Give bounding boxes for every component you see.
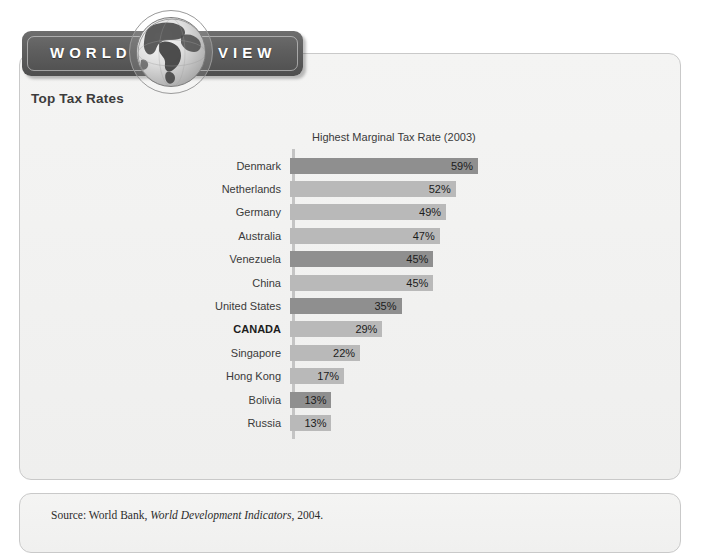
chart-bar: 47% <box>290 228 440 244</box>
chart-row-label: Russia <box>20 417 290 429</box>
chart-bar: 45% <box>290 251 433 267</box>
chart-row-label: Singapore <box>20 347 290 359</box>
chart-bar-value: 35% <box>374 300 401 312</box>
chart-bar: 13% <box>290 415 331 431</box>
chart-bar-value: 45% <box>406 277 433 289</box>
chart-bar-value: 22% <box>333 347 360 359</box>
source-note: Source: World Bank, World Development In… <box>51 509 323 521</box>
chart-bar-value: 49% <box>419 206 446 218</box>
chart-row: Germany49% <box>20 201 682 224</box>
chart-row: CANADA29% <box>20 318 682 341</box>
banner-word-view: VIEW <box>218 44 276 62</box>
chart-rows: Denmark59%Netherlands52%Germany49%Austra… <box>20 154 682 435</box>
chart-bar-value: 29% <box>355 323 382 335</box>
chart-row-label: CANADA <box>20 323 290 335</box>
source-title: World Development Indicators <box>150 509 291 521</box>
chart-row-label: Denmark <box>20 160 290 172</box>
chart-bar: 49% <box>290 204 446 220</box>
chart-bar-value: 47% <box>413 230 440 242</box>
chart-row: Singapore22% <box>20 341 682 364</box>
chart-bar-value: 13% <box>304 394 331 406</box>
page-title: Top Tax Rates <box>31 91 124 106</box>
chart-row-label: Australia <box>20 230 290 242</box>
chart-bar-value: 17% <box>317 370 344 382</box>
chart-row: Venezuela45% <box>20 248 682 271</box>
chart-bar: 13% <box>290 392 331 408</box>
chart-row: Hong Kong17% <box>20 365 682 388</box>
chart-bar: 22% <box>290 345 360 361</box>
source-suffix: , 2004. <box>292 509 324 521</box>
chart-bar: 52% <box>290 181 456 197</box>
chart-row: United States35% <box>20 294 682 317</box>
chart-bar: 59% <box>290 158 478 174</box>
chart-row: Bolivia13% <box>20 388 682 411</box>
chart-bar: 45% <box>290 275 433 291</box>
chart-row: Russia13% <box>20 411 682 434</box>
chart-row-label: Hong Kong <box>20 370 290 382</box>
chart-row-label: Bolivia <box>20 394 290 406</box>
source-prefix: Source: World Bank, <box>51 509 150 521</box>
secondary-panel <box>19 493 681 553</box>
chart-row: Australia47% <box>20 224 682 247</box>
chart-row-label: Netherlands <box>20 183 290 195</box>
chart-bar-value: 45% <box>406 253 433 265</box>
chart-bar-value: 52% <box>429 183 456 195</box>
chart-bar: 35% <box>290 298 402 314</box>
chart-row-label: United States <box>20 300 290 312</box>
chart-bar-value: 59% <box>451 160 478 172</box>
chart-row: Netherlands52% <box>20 177 682 200</box>
chart-title: Highest Marginal Tax Rate (2003) <box>312 131 476 143</box>
globe-sphere <box>136 17 206 87</box>
chart-bar: 29% <box>290 321 382 337</box>
tax-rate-bar-chart: Highest Marginal Tax Rate (2003) Denmark… <box>20 54 682 481</box>
chart-row-label: Venezuela <box>20 253 290 265</box>
chart-row-label: Germany <box>20 206 290 218</box>
globe-icon <box>129 10 213 94</box>
chart-row: China45% <box>20 271 682 294</box>
world-view-panel: Highest Marginal Tax Rate (2003) Denmark… <box>19 53 681 480</box>
banner-word-world: WORLD <box>50 44 132 62</box>
chart-row-label: China <box>20 277 290 289</box>
chart-bar-value: 13% <box>304 417 331 429</box>
chart-bar: 17% <box>290 368 344 384</box>
chart-row: Denmark59% <box>20 154 682 177</box>
